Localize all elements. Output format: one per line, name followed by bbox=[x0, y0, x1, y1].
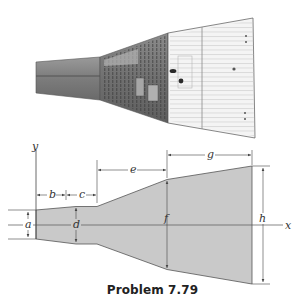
label-e: e bbox=[130, 163, 137, 176]
cross-section-diagram: y x a b c d e f g bbox=[8, 140, 292, 284]
label-a: a bbox=[25, 218, 32, 231]
label-g: g bbox=[207, 148, 214, 161]
label-b: b bbox=[49, 188, 56, 201]
label-h: h bbox=[259, 212, 266, 225]
label-d: d bbox=[73, 218, 80, 231]
label-c: c bbox=[79, 188, 85, 201]
x-axis-label: x bbox=[285, 219, 292, 232]
spacecraft-photo bbox=[36, 18, 255, 138]
figure-caption: Problem 7.79 bbox=[0, 283, 305, 297]
y-axis-label: y bbox=[31, 140, 39, 153]
figure: y x a b c d e f g bbox=[0, 0, 305, 305]
spacecraft-rear-section bbox=[36, 57, 100, 100]
